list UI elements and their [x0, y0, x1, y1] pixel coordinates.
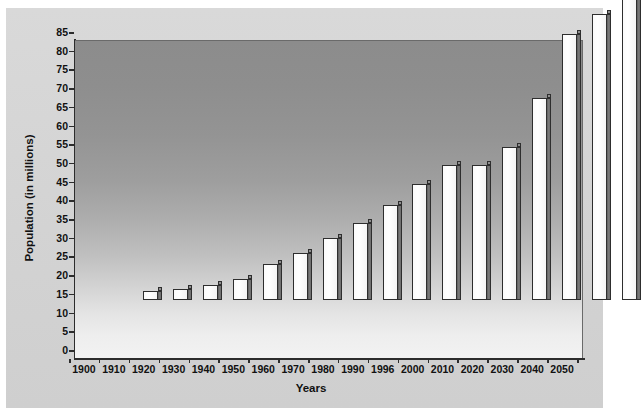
bar-front-face	[203, 285, 218, 300]
bar	[263, 260, 282, 300]
bar-side-face	[607, 14, 611, 300]
bar	[442, 161, 461, 300]
bar-top-face	[427, 180, 431, 184]
bar-top-face	[487, 161, 491, 165]
y-tick-mark	[69, 144, 74, 146]
y-tick-mark	[69, 200, 74, 202]
bar	[173, 285, 192, 300]
bar-top-face	[308, 249, 312, 253]
x-tick-mark	[129, 359, 131, 363]
bar-top-face	[607, 10, 611, 14]
chart-canvas: Population (in millions) 051015202530354…	[6, 8, 603, 408]
bar-side-face	[487, 165, 491, 300]
bar-front-face	[293, 253, 308, 300]
bar	[203, 281, 222, 300]
bar-front-face	[323, 238, 338, 300]
y-tick-mark	[69, 275, 74, 277]
y-tick-label: 30	[46, 233, 68, 243]
bar	[353, 219, 372, 300]
x-tick-mark	[577, 359, 579, 363]
y-tick-mark	[69, 182, 74, 184]
x-tick-label: 1910	[97, 363, 131, 375]
bar-front-face	[442, 165, 457, 300]
bar-front-face	[412, 184, 427, 300]
y-tick-mark	[69, 163, 74, 165]
bar-side-face	[547, 98, 551, 300]
x-tick-mark	[159, 359, 161, 363]
y-tick-label: 0	[46, 345, 68, 355]
bar-side-face	[457, 165, 461, 300]
y-tick-label: 20	[46, 270, 68, 280]
bar-top-face	[547, 94, 551, 98]
bar-top-face	[398, 201, 402, 205]
y-tick-mark	[69, 331, 74, 333]
bar-side-face	[338, 238, 342, 300]
y-tick-mark	[69, 219, 74, 221]
y-tick-label: 80	[46, 46, 68, 56]
bar	[622, 0, 641, 300]
x-tick-mark	[517, 359, 519, 363]
bar	[472, 161, 491, 300]
bar-top-face	[338, 234, 342, 238]
bar-side-face	[368, 223, 372, 300]
x-tick-label: 1950	[216, 363, 250, 375]
bar-top-face	[577, 30, 581, 34]
bar-front-face	[353, 223, 368, 300]
y-tick-label: 60	[46, 121, 68, 131]
y-tick-label: 25	[46, 251, 68, 261]
y-tick-label: 35	[46, 214, 68, 224]
x-tick-mark	[338, 359, 340, 363]
y-tick-mark	[69, 69, 74, 71]
x-tick-mark	[69, 359, 71, 363]
x-tick-label: 2050	[545, 363, 579, 375]
bar-side-face	[577, 34, 581, 300]
bar	[532, 94, 551, 300]
x-tick-mark	[487, 359, 489, 363]
bar-front-face	[143, 291, 158, 300]
bar-top-face	[278, 260, 282, 264]
y-tick-mark	[69, 256, 74, 258]
bar-front-face	[562, 34, 577, 300]
y-tick-mark	[69, 238, 74, 240]
bar-top-face	[158, 287, 162, 291]
bar-top-face	[218, 281, 222, 285]
bar	[323, 234, 342, 300]
x-tick-mark	[457, 359, 459, 363]
y-tick-mark	[69, 107, 74, 109]
x-axis-title: Years	[6, 382, 616, 394]
y-tick-label: 40	[46, 195, 68, 205]
bar	[383, 201, 402, 300]
bar-side-face	[218, 285, 222, 300]
x-tick-label: 1996	[366, 363, 400, 375]
x-tick-mark	[248, 359, 250, 363]
x-tick-mark	[398, 359, 400, 363]
bar-side-face	[248, 279, 252, 300]
plot-area	[75, 40, 583, 358]
x-tick-mark	[547, 359, 549, 363]
bar	[412, 180, 431, 300]
bar	[293, 249, 312, 300]
bar-side-face	[427, 184, 431, 300]
bar-side-face	[278, 264, 282, 300]
y-tick-label: 55	[46, 139, 68, 149]
bar-front-face	[233, 279, 248, 300]
x-tick-mark	[428, 359, 430, 363]
y-tick-mark	[69, 294, 74, 296]
bar-front-face	[592, 14, 607, 300]
bar-front-face	[173, 289, 188, 300]
bar-top-face	[457, 161, 461, 165]
bar-front-face	[532, 98, 547, 300]
y-axis-title: Population (in millions)	[20, 38, 38, 358]
y-tick-mark	[69, 88, 74, 90]
bar-side-face	[637, 0, 641, 300]
y-tick-mark	[69, 51, 74, 53]
x-tick-mark	[278, 359, 280, 363]
x-tick-mark	[308, 359, 310, 363]
x-tick-label: 1970	[276, 363, 310, 375]
bar-side-face	[517, 147, 521, 300]
bar-front-face	[383, 205, 398, 300]
bar	[502, 143, 521, 300]
bar-side-face	[158, 291, 162, 300]
bar-side-face	[188, 289, 192, 300]
x-tick-label: 1930	[157, 363, 191, 375]
